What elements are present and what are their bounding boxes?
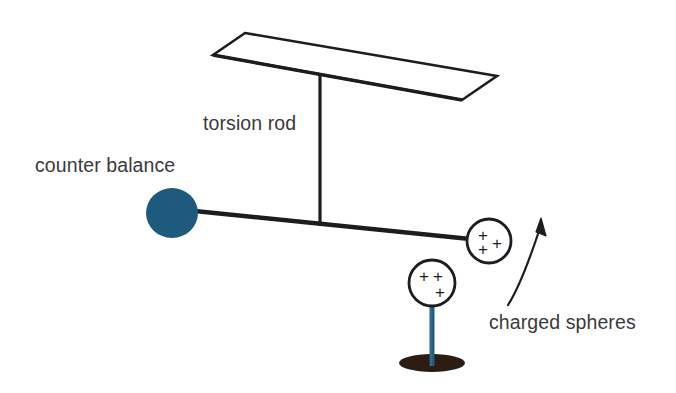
balance-beam-line xyxy=(175,209,480,240)
charge-plus-mark: + xyxy=(478,240,488,259)
charge-plus-mark: + xyxy=(492,234,502,253)
torsion-balance-diagram: + + + + + + torsion rod counter balance … xyxy=(0,0,676,393)
charged-sphere-lower xyxy=(409,260,455,306)
diagram-canvas: + + + + + + torsion rod counter balance … xyxy=(0,0,676,393)
label-counter-balance: counter balance xyxy=(35,154,175,176)
label-torsion-rod: torsion rod xyxy=(203,112,296,134)
charge-plus-mark: + xyxy=(419,267,429,286)
counter-balance-sphere xyxy=(146,188,198,238)
charged-sphere-upper xyxy=(467,219,511,263)
charge-plus-mark: + xyxy=(435,283,445,302)
rotation-arrow-curve xyxy=(508,231,539,305)
ceiling-plate-shape xyxy=(213,33,497,100)
label-charged-spheres: charged spheres xyxy=(489,311,636,333)
